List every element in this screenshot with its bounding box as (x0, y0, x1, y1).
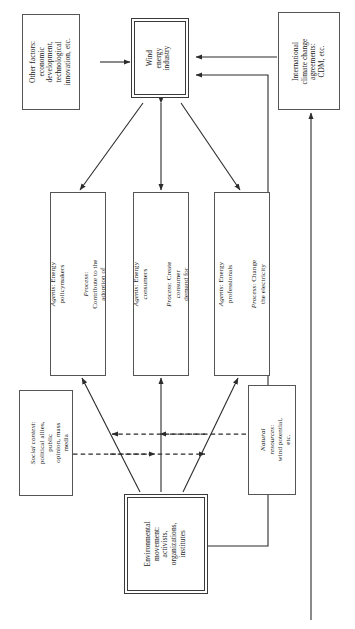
edge-wind-to-professionals (181, 103, 240, 190)
edge-wind-to-policymakers (80, 103, 143, 190)
node-social-context[interactable]: Social context: political allies, public… (19, 390, 73, 496)
process-label: Process (82, 274, 90, 297)
diagram-canvas: Other factors: economic development, tec… (0, 0, 355, 629)
process-label: Process (165, 284, 173, 307)
node-environmental-movement[interactable]: Environmental movement: activists, organ… (124, 494, 208, 594)
node-natural-resources-label: Natural resources: wind potential, etc. (251, 417, 292, 463)
node-energy-consumers-label: Agents: Energy consumers Process: Create… (133, 257, 189, 311)
social-context-label: Social context (30, 424, 38, 465)
node-social-context-label: Social context: political allies, public… (21, 417, 71, 469)
agents-label: Agents (133, 286, 140, 306)
node-wind-energy-industry[interactable]: Wind energy industry (131, 18, 189, 98)
node-energy-policymakers-label: Agents: Energy policymakers Process: Con… (50, 257, 106, 311)
node-energy-professionals-label: Agents: Energy professionals Process: Ch… (214, 257, 270, 311)
node-natural-resources[interactable]: Natural resources: wind potential, etc. (248, 385, 296, 495)
node-international-agreements[interactable]: International climate change agreements:… (278, 12, 340, 110)
node-energy-consumers[interactable]: Agents: Energy consumers Process: Create… (133, 192, 189, 376)
node-other-factors[interactable]: Other factors: economic development, tec… (22, 14, 80, 110)
node-international-agreements-label: International climate change agreements:… (292, 38, 327, 84)
node-energy-policymakers[interactable]: Agents: Energy policymakers Process: Con… (50, 192, 106, 376)
node-other-factors-label: Other factors: economic development, tec… (29, 38, 73, 85)
edge-environmental-to-professionals (183, 378, 238, 492)
node-environmental-movement-label: Environmental movement: activists, organ… (144, 521, 188, 566)
natural-resources-label: Natural resources (260, 427, 276, 455)
process-label: Process (250, 286, 258, 309)
agents-label: Agents (217, 286, 225, 306)
agents-label: Agents (50, 286, 57, 306)
edge-environmental-to-policymakers (82, 378, 140, 492)
node-wind-energy-industry-label: Wind energy industry (147, 45, 173, 70)
node-energy-professionals[interactable]: Agents: Energy professionals Process: Ch… (214, 192, 270, 376)
